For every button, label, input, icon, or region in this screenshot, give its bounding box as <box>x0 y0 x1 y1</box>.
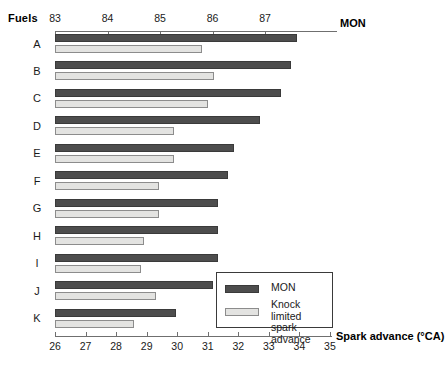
spark-advance-tick-mark <box>269 332 270 336</box>
bar-row: F <box>0 171 446 192</box>
bar-mon <box>55 199 218 207</box>
spark-advance-tick-label: 32 <box>225 340 251 352</box>
fuel-label: F <box>26 175 48 187</box>
spark-advance-tick-mark <box>116 332 117 336</box>
bar-mon <box>55 61 291 69</box>
fuel-label: E <box>26 147 48 159</box>
legend-label-mon: MON <box>271 282 296 294</box>
spark-advance-tick-mark <box>147 332 148 336</box>
mon-tick-label: 84 <box>95 12 121 24</box>
fuel-label: K <box>26 312 48 324</box>
bar-knock-limited-spark-advance <box>55 72 214 80</box>
fuel-label: A <box>26 38 48 50</box>
bar-row: D <box>0 116 446 137</box>
spark-advance-tick-label: 31 <box>195 340 221 352</box>
bar-row: H <box>0 226 446 247</box>
mon-tick-label: 85 <box>147 12 173 24</box>
spark-advance-tick-label: 29 <box>134 340 160 352</box>
bar-row: G <box>0 199 446 220</box>
bar-row: C <box>0 89 446 110</box>
bar-mon <box>55 254 218 262</box>
fuel-label: C <box>26 92 48 104</box>
mon-tick-label: 83 <box>42 12 68 24</box>
spark-advance-tick-mark <box>177 332 178 336</box>
mon-tick-label: 86 <box>200 12 226 24</box>
bar-mon <box>55 281 213 289</box>
bar-knock-limited-spark-advance <box>55 45 202 53</box>
bar-mon <box>55 309 176 317</box>
bar-knock-limited-spark-advance <box>55 320 134 328</box>
knock-limited-spark-advance-chart: Fuels MON Spark advance (°CA) 8384858687… <box>0 0 446 366</box>
fuel-label: H <box>26 230 48 242</box>
mon-tick-label: 87 <box>252 12 278 24</box>
bar-knock-limited-spark-advance <box>55 100 208 108</box>
bar-knock-limited-spark-advance <box>55 155 174 163</box>
fuel-label: I <box>26 257 48 269</box>
bar-knock-limited-spark-advance <box>55 210 159 218</box>
legend-swatch-mon-icon <box>225 285 259 293</box>
bar-knock-limited-spark-advance <box>55 265 141 273</box>
spark-advance-tick-label: 30 <box>164 340 190 352</box>
bar-row: A <box>0 34 446 55</box>
bar-knock-limited-spark-advance <box>55 182 159 190</box>
spark-advance-tick-mark <box>208 332 209 336</box>
spark-advance-axis-title: Spark advance (°CA) <box>336 330 444 342</box>
bar-row: E <box>0 144 446 165</box>
mon-axis-title: MON <box>340 17 366 29</box>
bar-mon <box>55 171 228 179</box>
bar-mon <box>55 89 281 97</box>
fuel-label: D <box>26 120 48 132</box>
chart-legend: MON Knock limited spark advance <box>216 272 333 328</box>
mon-axis-line <box>55 31 337 32</box>
bar-mon <box>55 144 234 152</box>
fuel-label: J <box>26 285 48 297</box>
bar-knock-limited-spark-advance <box>55 292 156 300</box>
bar-mon <box>55 226 218 234</box>
bar-knock-limited-spark-advance <box>55 127 174 135</box>
fuel-label: G <box>26 202 48 214</box>
spark-advance-tick-mark <box>86 332 87 336</box>
legend-label-knock-limited-spark-advance: Knock limited spark advance <box>271 299 311 345</box>
spark-advance-tick-label: 27 <box>73 340 99 352</box>
spark-advance-tick-mark <box>238 332 239 336</box>
spark-advance-tick-mark <box>55 332 56 336</box>
fuel-label: B <box>26 65 48 77</box>
bar-knock-limited-spark-advance <box>55 237 144 245</box>
bar-mon <box>55 34 297 42</box>
category-axis-title: Fuels <box>8 12 38 24</box>
legend-swatch-knock-icon <box>225 308 259 316</box>
spark-advance-tick-mark <box>330 332 331 336</box>
spark-advance-tick-label: 28 <box>103 340 129 352</box>
bar-mon <box>55 116 260 124</box>
spark-advance-tick-label: 26 <box>42 340 68 352</box>
bar-row: B <box>0 61 446 82</box>
spark-advance-tick-label: 35 <box>317 340 343 352</box>
